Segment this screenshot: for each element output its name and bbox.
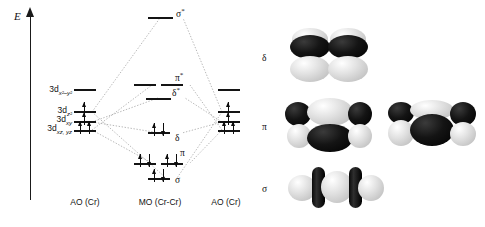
ao-level-left-dx2y2	[74, 89, 96, 91]
mo-label-delta-star: δ*	[172, 88, 180, 98]
electron-arrow	[231, 121, 236, 134]
orbital-lobe	[358, 175, 384, 201]
electron-arrow	[138, 154, 143, 167]
orbital-lobe	[290, 56, 330, 82]
orbital-lobe	[307, 124, 353, 152]
orbital-picture-pi-right	[388, 100, 478, 152]
electron-arrow	[174, 154, 179, 167]
column-caption-right-ao: AO (Cr)	[196, 197, 256, 207]
electron-arrow	[152, 169, 157, 182]
orbital-picture-sigma	[288, 165, 388, 210]
mo-level-sigma-star	[148, 17, 173, 19]
column-caption-left-ao: AO (Cr)	[55, 197, 115, 207]
mo-label-pi: π	[180, 148, 185, 158]
orbital-picture-pi-left	[285, 98, 375, 153]
electron-arrow	[165, 154, 170, 167]
mo-label-sigma-star: σ*	[176, 9, 185, 19]
electron-arrow	[87, 121, 92, 134]
electron-arrow	[152, 123, 157, 136]
orbital-lobe	[450, 122, 476, 146]
column-caption-mo: MO (Cr-Cr)	[125, 197, 195, 207]
ao-level-label-dx2y2: 3dx²–y²	[28, 84, 72, 94]
mo-level-delta-star	[146, 98, 171, 100]
orbital-picture-label-pi: π	[262, 122, 267, 132]
mo-label-pi-star: π*	[175, 73, 183, 83]
orbital-picture-label-delta: δ	[262, 53, 266, 63]
electron-arrow	[78, 121, 83, 134]
mo-label-sigma: σ	[175, 175, 180, 185]
energy-axis-arrowhead-icon	[26, 7, 34, 17]
electron-arrow	[147, 154, 152, 167]
electron-arrow	[161, 169, 166, 182]
orbital-picture-label-sigma: σ	[262, 184, 267, 194]
orbital-lobe	[307, 98, 353, 126]
mo-label-delta: δ	[175, 133, 179, 143]
orbital-picture-delta	[290, 26, 370, 86]
energy-axis-label: E	[14, 10, 21, 22]
orbital-lobe	[328, 56, 368, 82]
orbital-lobe	[410, 114, 454, 146]
electron-arrow	[222, 121, 227, 134]
orbital-lobe	[348, 102, 372, 126]
orbital-lobe	[348, 124, 372, 148]
mo-diagram-figure: E 3dx²–y² 3dz²	[0, 0, 485, 227]
ao-level-label-dxzyz: 3dxz, yz	[22, 123, 72, 133]
ao-level-right-dx2y2	[218, 89, 240, 91]
mo-level-pi-star-a	[134, 84, 156, 86]
electron-arrow	[161, 123, 166, 136]
